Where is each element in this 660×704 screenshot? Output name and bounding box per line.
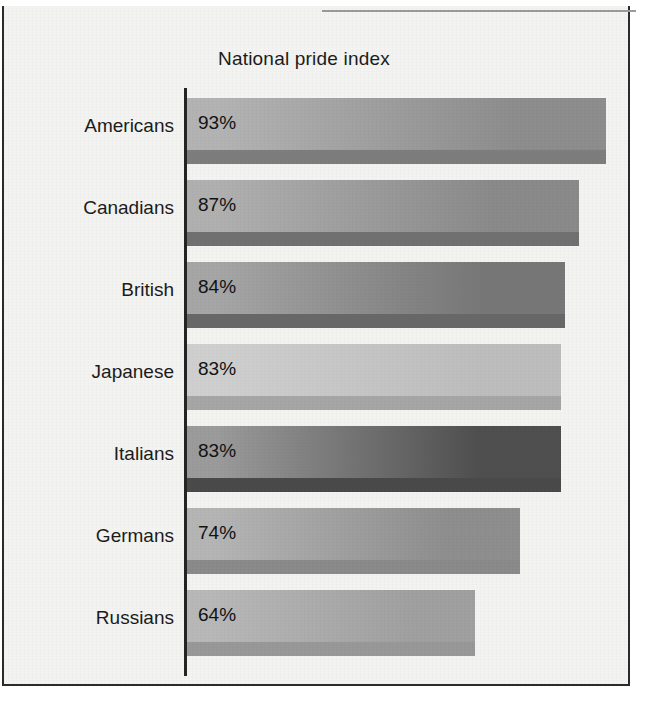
bar[interactable]: 93% [187, 98, 606, 164]
bar[interactable]: 74% [187, 508, 520, 574]
bar-base-strip [187, 560, 520, 574]
bar-row: Italians83% [4, 426, 632, 492]
bar[interactable]: 83% [187, 426, 561, 492]
bar-value-label: 83% [198, 358, 236, 380]
bar-base-strip [187, 396, 561, 410]
bar-category-label: Canadians [83, 197, 174, 219]
bar-fill [187, 508, 520, 560]
bar-row: Germans74% [4, 508, 632, 574]
bar-category-label: Americans [84, 115, 174, 137]
bar-row: British84% [4, 262, 632, 328]
bar-row: Canadians87% [4, 180, 632, 246]
bar-value-label: 83% [198, 440, 236, 462]
bar-row: Americans93% [4, 98, 632, 164]
bar-row: Japanese83% [4, 344, 632, 410]
bar-value-label: 74% [198, 522, 236, 544]
bar-fill [187, 426, 561, 478]
bar-base-strip [187, 642, 475, 656]
bar-fill [187, 344, 561, 396]
bar-category-label: Germans [96, 525, 174, 547]
chart-title: National pride index [4, 48, 604, 70]
bar-chart: National pride index Americans93%Canadia… [4, 6, 632, 686]
bar[interactable]: 84% [187, 262, 565, 328]
bar-category-label: British [121, 279, 174, 301]
bar-value-label: 84% [198, 276, 236, 298]
bar-category-label: Italians [114, 443, 174, 465]
bar-category-label: Russians [96, 607, 174, 629]
bar-value-label: 64% [198, 604, 236, 626]
bar-row: Russians64% [4, 590, 632, 656]
bar-fill [187, 262, 565, 314]
bar-fill [187, 98, 606, 150]
scanned-page: National pride index Americans93%Canadia… [0, 0, 660, 704]
bar[interactable]: 83% [187, 344, 561, 410]
bar-base-strip [187, 232, 579, 246]
paper-frame: National pride index Americans93%Canadia… [2, 6, 630, 686]
bar[interactable]: 64% [187, 590, 475, 656]
bar-value-label: 87% [198, 194, 236, 216]
bar-base-strip [187, 314, 565, 328]
bar-base-strip [187, 150, 606, 164]
bar-base-strip [187, 478, 561, 492]
bar-value-label: 93% [198, 112, 236, 134]
bar-category-label: Japanese [92, 361, 174, 383]
bar-fill [187, 180, 579, 232]
bar[interactable]: 87% [187, 180, 579, 246]
